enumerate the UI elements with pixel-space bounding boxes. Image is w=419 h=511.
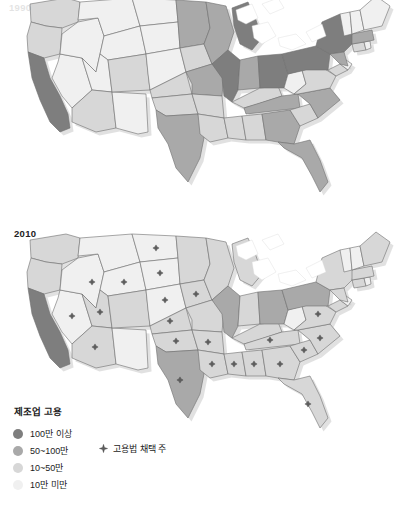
state-NM xyxy=(112,328,148,370)
legend-swatch-icon xyxy=(13,480,23,490)
legend-marker-item: 고용법 채택 주 xyxy=(99,442,166,455)
state-FL xyxy=(278,140,328,192)
diamond-marker-icon xyxy=(99,444,108,453)
state-OR xyxy=(27,258,62,294)
great-lake-5 xyxy=(262,234,284,250)
state-OR xyxy=(27,22,62,58)
legend-title: 제조업 고용 xyxy=(14,404,213,418)
legend-item-label: 10만 미만 xyxy=(30,478,67,491)
legend-rows: 100만 이상 50~100만 10~50만 10만 미만 고용법 채택 주 xyxy=(13,425,213,493)
legend-item: 10만 미만 xyxy=(13,476,213,493)
us-map-svg-1990 xyxy=(0,0,419,252)
legend-item: 10~50만 xyxy=(13,459,213,476)
year-label-bottom: 2010 xyxy=(14,228,36,239)
great-lake-5 xyxy=(262,0,284,14)
legend: 제조업 고용 100만 이상 50~100만 10~50만 10만 미만 xyxy=(13,404,213,493)
legend-item-label: 10~50만 xyxy=(30,461,63,474)
legend-item: 100만 이상 xyxy=(13,425,213,442)
state-CO xyxy=(108,54,150,92)
map-panel-1990 xyxy=(0,0,419,252)
state-FL xyxy=(278,376,328,428)
legend-swatch-icon xyxy=(13,446,23,456)
great-lake-3 xyxy=(278,270,306,286)
state-IN xyxy=(238,56,260,90)
legend-marker-label: 고용법 채택 주 xyxy=(113,442,166,455)
year-label-top: 1990 xyxy=(9,2,31,13)
legend-item-label: 50~100만 xyxy=(30,444,68,457)
great-lake-3 xyxy=(278,34,306,50)
state-CO xyxy=(108,290,150,328)
map-figure: 1990 2010 제조업 고용 100만 이상 50~100만 10~50만 … xyxy=(0,0,419,511)
legend-swatch-icon xyxy=(13,429,23,439)
legend-item-label: 100만 이상 xyxy=(30,427,72,440)
state-IN xyxy=(238,292,260,326)
legend-swatch-icon xyxy=(13,463,23,473)
state-NM xyxy=(112,92,148,134)
state-ND xyxy=(132,0,178,26)
